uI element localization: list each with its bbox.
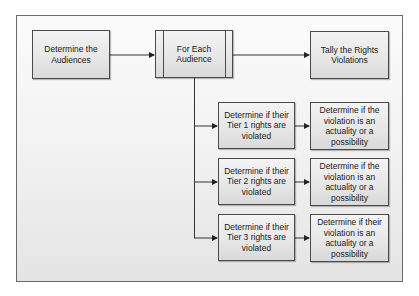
node-label-line: Determine if their bbox=[224, 222, 289, 233]
node-label-line: Determine if their bbox=[317, 217, 382, 228]
node-label-line: violated bbox=[224, 187, 289, 198]
node-label-line: actuality or a bbox=[317, 238, 382, 249]
node-label-line: violated bbox=[224, 243, 289, 254]
node-label-line: Determine the bbox=[44, 44, 97, 55]
node-label-line: violation is an bbox=[317, 228, 382, 239]
node-tier2-actuality: Determine if the violation is an actuali… bbox=[310, 158, 389, 206]
node-label-line: violation is an bbox=[320, 116, 380, 127]
node-label-line: Tally the Rights bbox=[321, 45, 379, 56]
node-tier1-actuality: Determine if the violation is an actuali… bbox=[310, 102, 389, 150]
node-determine-audiences: Determine the Audiences bbox=[32, 30, 110, 79]
node-label-line: violated bbox=[224, 131, 289, 142]
node-label-line: Determine if their bbox=[224, 110, 289, 121]
node-label-line: possibility bbox=[320, 137, 380, 148]
node-label-line: actuality or a bbox=[320, 182, 380, 193]
node-label-line: possibility bbox=[320, 193, 380, 204]
node-tier3: Determine if their Tier 3 rights are vio… bbox=[218, 214, 295, 261]
node-tier2: Determine if their Tier 2 rights are vio… bbox=[218, 158, 295, 205]
node-label-line: Determine if the bbox=[320, 161, 380, 172]
node-label-line: actuality or a bbox=[320, 126, 380, 137]
node-tally-violations: Tally the Rights Violations bbox=[310, 31, 389, 79]
node-label-line: Tier 3 rights are bbox=[224, 232, 289, 243]
node-label-line: Violations bbox=[321, 55, 379, 66]
node-tier1: Determine if their Tier 1 rights are vio… bbox=[218, 102, 295, 149]
node-label-line: Tier 1 rights are bbox=[224, 120, 289, 131]
node-for-each-audience: For Each Audience bbox=[155, 30, 233, 78]
node-label-line: Determine if their bbox=[224, 166, 289, 177]
node-label-line: possibility bbox=[317, 249, 382, 260]
node-label-line: violation is an bbox=[320, 172, 380, 183]
node-label-line: Tier 2 rights are bbox=[224, 176, 289, 187]
node-label-line: Determine if the bbox=[320, 105, 380, 116]
node-tier3-actuality: Determine if their violation is an actua… bbox=[310, 214, 389, 262]
node-label-line: Audience bbox=[176, 54, 211, 65]
node-label-line: Audiences bbox=[44, 55, 97, 66]
node-label-line: For Each bbox=[176, 44, 211, 55]
